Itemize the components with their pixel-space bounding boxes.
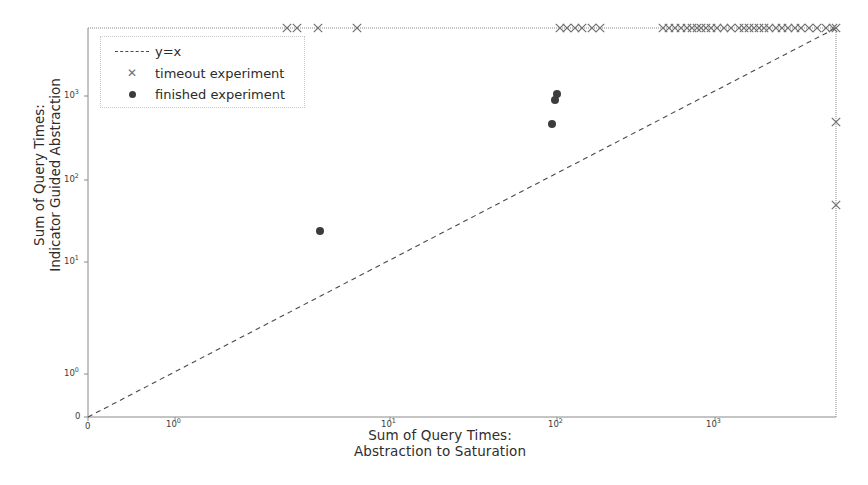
finished-marker: [316, 227, 324, 235]
y-tick-label-3: 103: [64, 90, 79, 100]
series-timeout-experiment: [283, 24, 840, 209]
x-axis-label-line1: Sum of Query Times:: [220, 428, 660, 444]
legend-item-finished-experiment: finished experiment: [109, 83, 285, 105]
x-tick-label-3: 103: [706, 419, 721, 429]
y-tick-label-0: 100: [64, 368, 79, 378]
legend-label-timeout-experiment: timeout experiment: [155, 66, 284, 81]
legend: y=x ✕ timeout experiment finished experi…: [100, 36, 305, 108]
finished-marker: [551, 96, 559, 104]
scatter-plot-figure: y=x ✕ timeout experiment finished experi…: [0, 0, 868, 485]
cross-marker-key-icon: ✕: [109, 67, 155, 79]
x-tick-label-0: 100: [166, 419, 181, 429]
y-axis-label-line2: Indicator Guided Abstraction: [48, 5, 64, 345]
y-tick-label-zero: 0: [75, 411, 80, 421]
legend-label-finished-experiment: finished experiment: [155, 87, 285, 102]
x-tick-label-1: 101: [381, 419, 396, 429]
legend-item-y-equals-x: y=x: [109, 40, 181, 62]
x-tick-label-zero: 0: [85, 421, 90, 431]
finished-marker: [548, 120, 556, 128]
x-axis-label-line2: Abstraction to Saturation: [220, 444, 660, 460]
dot-marker-key-icon: [109, 91, 155, 98]
y-axis-label-line1: Sum of Query Times:: [32, 5, 48, 345]
legend-item-timeout-experiment: ✕ timeout experiment: [109, 62, 284, 84]
tick-marks: [84, 96, 715, 421]
x-tick-label-2: 102: [548, 419, 563, 429]
y-axis-label: Sum of Query Times: Indicator Guided Abs…: [32, 5, 64, 345]
y-tick-label-1: 101: [64, 256, 79, 266]
dashed-line-key-icon: [109, 51, 155, 52]
y-tick-label-2: 102: [64, 174, 79, 184]
x-axis-label: Sum of Query Times: Abstraction to Satur…: [220, 428, 660, 460]
legend-label-y-equals-x: y=x: [155, 44, 181, 59]
series-finished-experiment: [316, 90, 561, 235]
data-series-layer: [283, 24, 840, 235]
